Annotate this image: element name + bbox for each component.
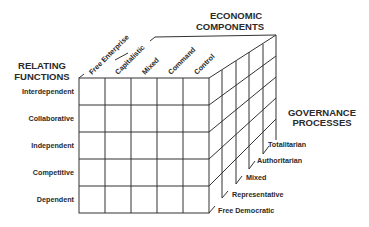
depth-label-totalitarian: Totalitarian [268, 140, 306, 149]
depth-axis-title-2: PROCESSES [292, 117, 351, 128]
row-label-interdependent: Interdependent [22, 87, 75, 96]
row-label-collaborative: Collaborative [28, 114, 74, 123]
column-axis-title-2: COMPONENTS [196, 21, 264, 32]
column-label-mixed: Mixed [140, 56, 161, 77]
column-axis-title-1: ECONOMIC [210, 10, 262, 21]
row-axis-title-2: FUNCTIONS [14, 71, 69, 82]
row-label-independent: Independent [31, 141, 74, 150]
front-face-grid [79, 78, 209, 213]
depth-label-representative: Representative [232, 190, 284, 199]
row-axis-title-1: RELATING [18, 60, 66, 71]
depth-label-authoritarian: Authoritarian [257, 156, 302, 165]
depth-label-mixed: Mixed [246, 173, 266, 182]
cube-diagram: RELATING FUNCTIONS ECONOMIC COMPONENTS G… [0, 0, 369, 227]
column-label-control: Control [192, 52, 216, 76]
depth-label-free-democratic: Free Democratic [218, 206, 274, 215]
side-face-grid [209, 35, 276, 213]
row-label-competitive: Competitive [33, 168, 74, 177]
row-label-dependent: Dependent [37, 195, 75, 204]
